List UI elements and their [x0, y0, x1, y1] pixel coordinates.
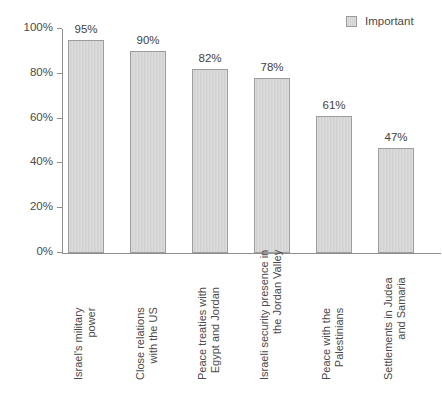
- y-tick-mark: [57, 28, 62, 29]
- bar[interactable]: [254, 78, 290, 253]
- y-tick-mark: [57, 162, 62, 163]
- category-label: Peace treaties withEgypt and Jordan: [192, 260, 228, 380]
- bar[interactable]: [130, 51, 166, 253]
- category-label-line: with the US: [147, 307, 160, 380]
- bar-slot: [68, 29, 104, 253]
- chart-legend: Important: [346, 16, 414, 28]
- category-label-text: Israel's militarypower: [72, 308, 98, 380]
- category-label-line: Palestinians: [333, 308, 346, 380]
- x-axis-line: [62, 253, 441, 254]
- bar-value-label: 47%: [378, 132, 414, 144]
- bar[interactable]: [316, 116, 352, 253]
- y-tick-label: 40%: [30, 156, 53, 168]
- category-label-line: Close relations: [134, 307, 147, 380]
- y-tick-mark: [57, 118, 62, 119]
- bar-value-label: 95%: [68, 24, 104, 36]
- bar-value-label: 61%: [316, 100, 352, 112]
- bar-value-label: 82%: [192, 53, 228, 65]
- bar-value-label: 90%: [130, 35, 166, 47]
- y-tick-label: 20%: [30, 201, 53, 213]
- category-label: Close relationswith the US: [130, 260, 166, 380]
- y-tick-mark: [57, 207, 62, 208]
- category-label: Peace with thePalestinians: [316, 260, 352, 380]
- category-label: Israel's militarypower: [68, 260, 104, 380]
- legend-swatch-important: [346, 16, 357, 27]
- y-tick-mark: [57, 73, 62, 74]
- category-label-text: Peace with thePalestinians: [320, 308, 346, 380]
- y-tick-mark: [57, 252, 62, 253]
- category-label-line: Israeli security presence in: [258, 250, 271, 380]
- bar[interactable]: [378, 148, 414, 253]
- bar-value-label: 78%: [254, 62, 290, 74]
- category-label-text: Israeli security presence inthe Jordan V…: [258, 250, 284, 380]
- bar[interactable]: [68, 40, 104, 253]
- bar-chart: Important 0%20%40%60%80%100% 95%90%82%78…: [0, 0, 442, 412]
- category-label: Israeli security presence inthe Jordan V…: [254, 260, 290, 380]
- y-tick-label: 60%: [30, 112, 53, 124]
- y-tick-label: 100%: [24, 22, 53, 34]
- category-label-line: Peace treaties with: [196, 287, 209, 380]
- category-label-line: Settlements in Judea: [382, 277, 395, 380]
- y-tick-label: 80%: [30, 67, 53, 79]
- category-label-line: Israel's military: [72, 308, 85, 380]
- bar-slot: [130, 29, 166, 253]
- legend-label-important: Important: [365, 16, 414, 28]
- y-axis-line: [62, 29, 63, 254]
- category-label-text: Close relationswith the US: [134, 307, 160, 380]
- category-label: Settlements in Judeaand Samaria: [378, 260, 414, 380]
- category-label-text: Peace treaties withEgypt and Jordan: [196, 287, 222, 380]
- category-label-line: power: [85, 308, 98, 380]
- category-label-line: Egypt and Jordan: [209, 287, 222, 380]
- category-label-line: Peace with the: [320, 308, 333, 380]
- y-tick-label: 0%: [36, 246, 53, 258]
- bar-slot: [316, 29, 352, 253]
- category-label-line: and Samaria: [395, 277, 408, 380]
- category-label-text: Settlements in Judeaand Samaria: [382, 277, 408, 380]
- category-label-line: the Jordan Valley: [271, 250, 284, 380]
- bar[interactable]: [192, 69, 228, 253]
